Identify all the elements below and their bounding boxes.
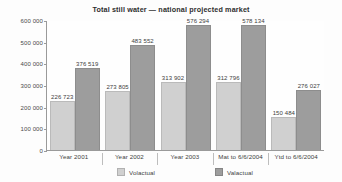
bar[interactable]	[75, 68, 100, 150]
bar[interactable]	[296, 90, 321, 150]
bar-group: 312 796578 134	[213, 21, 268, 150]
bar[interactable]	[161, 82, 186, 150]
bar[interactable]	[105, 91, 130, 150]
legend-item[interactable]: Valactual	[215, 168, 253, 176]
chart-legend: VolactualValactual	[46, 168, 324, 176]
bar[interactable]	[130, 45, 155, 150]
bar[interactable]	[216, 82, 241, 150]
x-axis-category-label: Year 2001	[46, 153, 102, 165]
legend-item[interactable]: Volactual	[117, 168, 155, 176]
x-axis-category-label: Year 2003	[157, 153, 213, 165]
bar-column[interactable]: 578 134	[241, 21, 266, 150]
bar-group: 226 723376 519	[47, 21, 102, 150]
y-axis-tick-mark	[44, 151, 47, 152]
x-axis-category-label: Year 2002	[102, 153, 158, 165]
bar-value-label: 313 902	[162, 75, 184, 81]
bar-value-label: 276 027	[298, 83, 320, 89]
bar[interactable]	[186, 25, 211, 150]
x-axis-category-label: Mat to 6/6/2004	[213, 153, 269, 165]
bar-group: 150 484276 027	[269, 21, 324, 150]
bar[interactable]	[271, 117, 296, 150]
bar-value-label: 226 723	[51, 94, 73, 100]
bar-value-label: 312 796	[217, 75, 239, 81]
bar-column[interactable]: 226 723	[50, 21, 75, 150]
bar-group: 313 902576 294	[158, 21, 213, 150]
legend-color-swatch	[117, 168, 125, 176]
bar-column[interactable]: 312 796	[216, 21, 241, 150]
bar-value-label: 576 294	[187, 18, 209, 24]
bar[interactable]	[241, 25, 266, 150]
bar-column[interactable]: 150 484	[271, 21, 296, 150]
bar-chart: Total still water — national projected m…	[0, 0, 342, 182]
x-axis-separator	[268, 153, 269, 165]
bar-value-label: 483 552	[131, 38, 153, 44]
bar-column[interactable]: 376 519	[75, 21, 100, 150]
bar-column[interactable]: 483 552	[130, 21, 155, 150]
bar-value-label: 273 805	[106, 84, 128, 90]
bar[interactable]	[50, 101, 75, 150]
chart-title: Total still water — national projected m…	[0, 5, 342, 14]
legend-label: Volactual	[129, 169, 155, 176]
legend-color-swatch	[215, 168, 223, 176]
x-axis-labels: Year 2001Year 2002Year 2003Mat to 6/6/20…	[46, 153, 324, 165]
x-axis-category-label: Ytd to 6/6/2004	[268, 153, 324, 165]
x-axis-separator	[157, 153, 158, 165]
bar-value-label: 376 519	[76, 61, 98, 67]
bar-groups: 226 723376 519273 805483 552313 902576 2…	[47, 21, 324, 150]
x-axis-separator	[213, 153, 214, 165]
plot-area: 0100 000200 000300 000400 000500 000600 …	[46, 21, 324, 151]
x-axis-separator	[102, 153, 103, 165]
bar-column[interactable]: 576 294	[186, 21, 211, 150]
bar-column[interactable]: 273 805	[105, 21, 130, 150]
bar-column[interactable]: 276 027	[296, 21, 321, 150]
bar-value-label: 150 484	[273, 110, 295, 116]
bar-value-label: 578 134	[242, 18, 264, 24]
legend-label: Valactual	[227, 169, 253, 176]
bar-column[interactable]: 313 902	[161, 21, 186, 150]
bar-group: 273 805483 552	[102, 21, 157, 150]
